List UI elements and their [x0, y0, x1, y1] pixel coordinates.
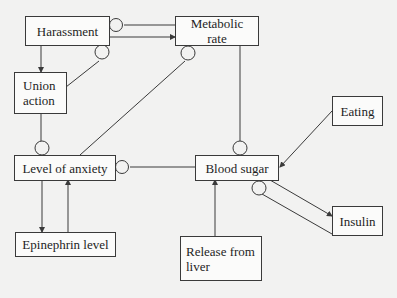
- node-level-of-anxiety: Level of anxiety: [14, 155, 116, 181]
- inhibit-marker-harassment-top: [110, 19, 123, 32]
- edge-union-to-harassment: [66, 61, 99, 87]
- inhibit-marker-bloodsugar-bottom: [252, 181, 266, 195]
- node-blood-sugar: Blood sugar: [195, 155, 279, 181]
- edge-insulin-to-bloodsugar: [262, 194, 332, 234]
- edge-eating-to-bloodsugar: [280, 111, 332, 167]
- causal-diagram: Harassment Metabolic rate Union action L…: [0, 0, 397, 298]
- inhibit-marker-bloodsugar-top: [233, 141, 247, 155]
- inhibit-marker-anxiety-right: [116, 161, 129, 174]
- inhibit-marker-anxiety-top: [35, 141, 49, 155]
- node-union-action: Union action: [14, 72, 67, 114]
- inhibit-marker-metabolic-bottom: [181, 46, 195, 60]
- node-release-from-liver: Release from liver: [180, 236, 262, 281]
- inhibit-marker-harassment-bottom: [95, 45, 109, 59]
- edge-bloodsugar-to-insulin: [270, 180, 332, 216]
- node-metabolic-rate: Metabolic rate: [175, 16, 259, 46]
- node-harassment: Harassment: [25, 16, 110, 46]
- node-insulin: Insulin: [332, 206, 383, 236]
- node-epinephrin-level: Epinephrin level: [15, 232, 116, 257]
- node-eating: Eating: [332, 96, 383, 126]
- edge-anxiety-to-metabolic: [80, 61, 185, 155]
